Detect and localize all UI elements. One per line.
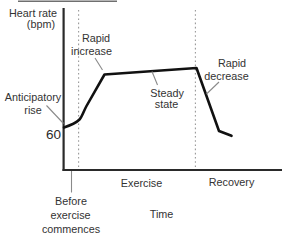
exercise-heart-rate-chart: Heart rate (bpm) 60 Anticipatory rise Ra… — [0, 0, 287, 236]
rapid-increase-leader-line — [95, 58, 103, 70]
x-axis-title: Time — [150, 208, 174, 220]
steady-state-leader-line — [152, 72, 158, 86]
y-axis-title-line1: Heart rate — [9, 7, 57, 19]
rapid-increase-label-line2: increase — [71, 45, 112, 57]
before-exercise-label-line2: exercise — [50, 209, 90, 221]
rapid-decrease-leader-line — [207, 82, 220, 94]
recovery-region-label: Recovery — [209, 176, 255, 188]
rapid-decrease-label-line1: Rapid — [218, 57, 246, 69]
y-axis-labels: Heart rate (bpm) 60 — [9, 7, 61, 143]
anticipatory-rise-label-line1: Anticipatory — [5, 91, 62, 103]
x-axis-labels: Exercise Recovery Before exercise commen… — [42, 176, 255, 235]
before-exercise-label-line3: commences — [42, 223, 101, 235]
anticipatory-rise-label-line2: rise — [24, 104, 41, 116]
exercise-region-label: Exercise — [121, 177, 162, 189]
chart-canvas: Heart rate (bpm) 60 Anticipatory rise Ra… — [0, 0, 287, 236]
y-axis-title-line2: (bpm) — [27, 18, 55, 30]
steady-state-label-line2: state — [155, 98, 178, 110]
rapid-decrease-label-line2: decrease — [204, 70, 248, 82]
y-axis-tick-60: 60 — [46, 127, 61, 142]
before-exercise-label-line1: Before — [55, 195, 87, 207]
anticipatory-rise-leader-line — [47, 106, 64, 124]
rapid-increase-label-line1: Rapid — [82, 32, 110, 44]
